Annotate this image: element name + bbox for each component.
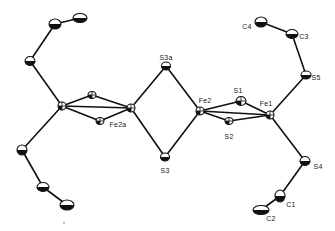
atom-s1a [88, 92, 96, 99]
atom-label-s3a: S3a [159, 54, 172, 61]
bond-s2-fe1 [229, 115, 270, 121]
atom-label-c4: C4 [242, 23, 251, 30]
atom-s3a [162, 62, 171, 70]
atom-label-s5: S5 [312, 74, 321, 81]
atom-fe2 [196, 107, 204, 115]
atom-label-s2: S2 [225, 133, 234, 140]
atom-s4a [17, 145, 27, 155]
atom-fe1a [58, 102, 66, 110]
atom-fe2a [127, 104, 135, 112]
bond-s5a-c3a [30, 24, 55, 61]
atom-c4 [255, 17, 267, 27]
atom-label-s3: S3 [161, 167, 170, 174]
atom-layer [17, 14, 311, 215]
atom-s5 [301, 71, 311, 79]
bond-layer [22, 18, 306, 210]
atom-s2 [225, 118, 233, 125]
bond-fe1a-s1a [62, 95, 92, 106]
atom-c1a [37, 183, 49, 192]
atom-c3 [286, 30, 298, 39]
bond-s2a-fe2a [100, 108, 131, 121]
atom-c2 [253, 206, 269, 215]
atom-s1 [236, 97, 246, 106]
atom-s2a [96, 118, 104, 125]
bond-s5-c3 [292, 34, 306, 75]
atom-label-c2: C2 [266, 215, 275, 222]
atom-s3 [161, 153, 170, 161]
bond-fe1a-s5a [30, 61, 62, 106]
bond-fe2a-s3a [131, 66, 166, 108]
atom-label-fe2: Fe2 [199, 97, 212, 104]
bond-s4a-c1a [22, 150, 43, 187]
atom-label-fe1: Fe1 [260, 100, 273, 107]
stray-mark [63, 222, 64, 223]
bond-s1a-fe2a [92, 95, 131, 108]
bond-fe1-s5 [270, 75, 306, 115]
atom-c1 [275, 190, 285, 202]
atom-label-fe2a: Fe2a [110, 121, 127, 128]
atom-label-s4: S4 [314, 163, 323, 170]
bond-fe1a-s2a [62, 106, 100, 121]
bond-fe1a-s4a [22, 106, 62, 150]
molecular-structure-diagram [0, 0, 335, 231]
bond-s3-fe2 [165, 111, 200, 157]
atom-s5a [25, 57, 35, 66]
bond-s3a-fe2 [166, 66, 200, 111]
atom-fe1 [266, 111, 274, 119]
bond-fe2a-s3 [131, 108, 165, 157]
bond-fe1-s4 [270, 115, 305, 161]
atom-label-c3: C3 [299, 33, 308, 40]
atom-c2a [60, 200, 74, 210]
atom-c3a [49, 19, 61, 29]
atom-label-s1: S1 [234, 87, 243, 94]
atom-c4a [73, 14, 87, 23]
bond-fe1a-fe2a [62, 106, 131, 108]
atom-s4 [300, 157, 310, 166]
bond-s4-c1 [280, 161, 305, 196]
atom-label-c1: C1 [286, 201, 295, 208]
